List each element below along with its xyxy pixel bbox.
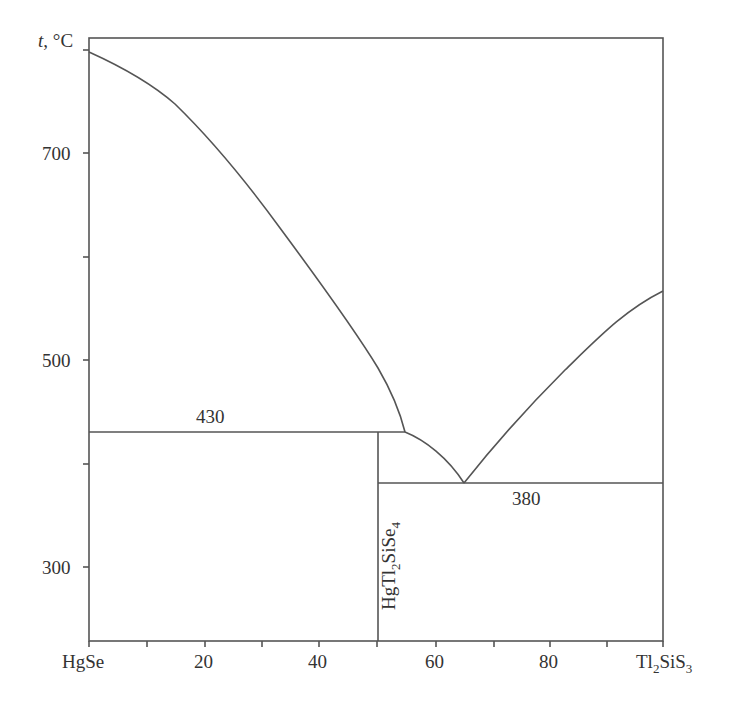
x-tick-40: 40 [308, 651, 327, 672]
x-label-tl2sis3: Tl2SiS3 [636, 651, 692, 676]
x-tick-80: 80 [539, 651, 558, 672]
plot-frame [89, 38, 663, 641]
y-tick-300: 300 [42, 557, 71, 578]
y-tick-700: 700 [42, 143, 71, 164]
compound-label: HgTl2SiSe4 [378, 522, 403, 610]
y-axis-ticks [83, 50, 89, 567]
annotation-380: 380 [512, 488, 541, 509]
liquidus-middle [405, 432, 464, 483]
x-tick-20: 20 [194, 651, 213, 672]
liquidus-left [89, 52, 405, 432]
liquidus-right [464, 291, 663, 483]
y-tick-500: 500 [42, 350, 71, 371]
y-axis-label: t, °C [38, 30, 73, 51]
annotation-430: 430 [196, 406, 225, 427]
phase-diagram: t, °C 700 500 300 HgSe 20 40 60 80 Tl2Si… [0, 0, 734, 705]
x-label-hgse: HgSe [62, 651, 104, 672]
x-axis-ticks [89, 641, 663, 647]
x-tick-60: 60 [425, 651, 444, 672]
